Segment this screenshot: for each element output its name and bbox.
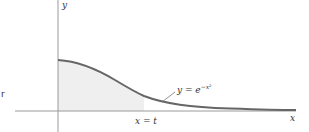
function-label: y = e−x² [177,84,212,95]
bound-label: x = t [135,117,157,126]
graph-canvas [0,0,309,132]
x-axis-label: x [290,114,295,123]
y-axis-label: y [62,1,67,10]
shaded-area [58,60,144,111]
label-leader-line [162,92,175,102]
function-label-exponent: −x² [201,83,212,90]
margin-label: r [1,90,5,99]
function-label-base: y = e [177,85,201,95]
